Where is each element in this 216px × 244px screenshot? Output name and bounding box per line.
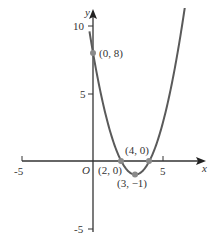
label-y-intercept: (0, 8) [99, 47, 123, 60]
y-tick-label: 10 [73, 20, 85, 32]
label-root-4: (4, 0) [125, 144, 149, 157]
origin-label: O [82, 164, 90, 176]
point-root-4 [146, 158, 152, 164]
parabola-chart: -5 5 10 5 -5 O x y (0, 8) (2, 0) (4, 0) … [0, 0, 216, 244]
label-vertex: (3, −1) [117, 177, 147, 190]
x-tick-label: -5 [14, 165, 24, 177]
key-points [90, 50, 152, 178]
y-tick-label: -5 [74, 223, 84, 235]
x-axis-label: x [201, 162, 207, 174]
y-tick-label: 5 [80, 88, 86, 100]
axis-labels: -5 5 10 5 -5 O x y [14, 6, 207, 235]
point-y-intercept [90, 50, 96, 56]
y-axis-label: y [84, 6, 90, 18]
x-tick-label: 5 [160, 165, 166, 177]
label-root-2: (2, 0) [98, 164, 122, 177]
